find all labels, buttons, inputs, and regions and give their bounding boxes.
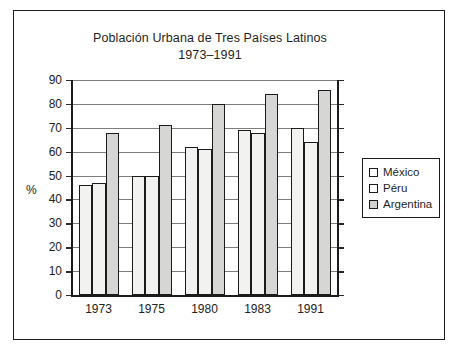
y-axis-tick-label: 70	[49, 121, 62, 135]
bar-group	[185, 80, 225, 295]
bar	[265, 94, 278, 295]
chart-title-line1: Población Urbana de Tres Países Latinos	[93, 31, 327, 45]
legend-swatch-icon	[369, 168, 378, 177]
y-axis-tick-label: 0	[55, 288, 62, 302]
x-axis-line	[71, 295, 339, 297]
y-axis-tick-label: 10	[49, 264, 62, 278]
y-axis-tick-label: 40	[49, 192, 62, 206]
x-axis-tick-label: 1980	[191, 302, 218, 316]
bar-series-layer	[72, 80, 337, 295]
legend-item: México	[369, 164, 432, 180]
bar	[304, 142, 317, 295]
bar-group	[79, 80, 119, 295]
legend-item: Argentina	[369, 196, 432, 212]
x-axis-tick-label: 1991	[297, 302, 324, 316]
bar-group	[238, 80, 278, 295]
y-axis-tick-label: 90	[49, 73, 62, 87]
chart-title: Población Urbana de Tres Países Latinos …	[40, 30, 380, 64]
legend-item: Péru	[369, 180, 432, 196]
bar	[79, 185, 92, 295]
chart-figure: Población Urbana de Tres Países Latinos …	[0, 0, 458, 351]
legend-item-label: México	[383, 166, 419, 178]
y-axis-tick-label: 30	[49, 216, 62, 230]
bar	[185, 147, 198, 295]
right-axis-line	[337, 80, 339, 296]
bar	[318, 90, 331, 295]
bar	[238, 130, 251, 295]
x-axis-tick-label: 1973	[85, 302, 112, 316]
y-axis-line	[71, 80, 73, 296]
legend-swatch-icon	[369, 200, 378, 209]
bar	[251, 133, 264, 295]
y-axis-tick-label: 20	[49, 240, 62, 254]
x-axis-tick-label: 1983	[244, 302, 271, 316]
legend-item-label: Péru	[383, 182, 407, 194]
y-axis-tick-label: 50	[49, 169, 62, 183]
bar-group	[291, 80, 331, 295]
bar	[106, 133, 119, 295]
bar	[291, 128, 304, 295]
chart-legend: MéxicoPéruArgentina	[362, 158, 440, 218]
bar	[159, 125, 172, 295]
legend-item-label: Argentina	[383, 198, 432, 210]
chart-title-line2: 1973–1991	[40, 47, 380, 64]
y-axis-title: %	[26, 183, 37, 197]
bar	[132, 176, 145, 295]
y-axis-tick-label: 60	[49, 145, 62, 159]
y-axis-tick-label: 80	[49, 97, 62, 111]
legend-swatch-icon	[369, 184, 378, 193]
bar	[92, 183, 105, 295]
bar	[198, 149, 211, 295]
bar-group	[132, 80, 172, 295]
bar	[145, 176, 158, 295]
plot-area: 0102030405060708090	[72, 80, 337, 295]
x-axis-tick-label: 1975	[138, 302, 165, 316]
bar	[212, 104, 225, 295]
